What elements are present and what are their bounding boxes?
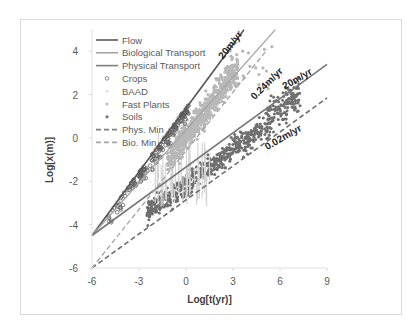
fast-plants-point [178,151,181,154]
soils-point [224,166,227,169]
soils-point [238,149,241,152]
soils-point [231,152,234,155]
fast-plants-point [175,154,178,157]
soils-point [279,108,282,111]
soils-point [285,112,288,115]
soils-point [279,115,282,118]
soils-point [282,104,285,107]
fast-plants-point [205,119,208,122]
fast-plants-point [227,76,230,79]
x-tick-label: 0 [183,276,189,287]
fast-plants-point [183,135,186,138]
legend-swatch [106,90,108,92]
soils-point [234,147,237,150]
soils-point [294,105,297,108]
x-tick-label: 9 [324,276,330,287]
soils-point [191,187,194,190]
soils-point [281,99,284,102]
soils-point [180,185,183,188]
legend-label: Biological Transport [122,47,206,58]
soils-point [220,166,223,169]
soils-point [263,133,266,136]
soils-point [237,138,240,141]
soils-point [256,123,259,126]
fast-plants-point [235,53,238,56]
soils-point [247,131,250,134]
legend-label: Fast Plants [122,99,170,110]
soils-point [278,123,281,126]
fast-plants-point [257,73,260,76]
y-tick-label: -6 [69,263,78,274]
fast-plants-point [178,162,181,165]
soils-point [154,211,157,214]
soils-point [168,197,171,200]
soils-point [211,165,214,168]
soils-point [268,131,271,134]
soils-point [158,212,161,215]
fast-plants-point [248,65,251,68]
y-tick-label: -4 [69,220,78,231]
soils-point [234,141,237,144]
legend-swatch [105,102,108,105]
scatter-chart: -6-30369-6-4-2024Log[t(yr)]Log[x(m)] Flo… [0,0,420,333]
soils-point [288,97,291,100]
soils-point [273,113,276,116]
soils-point [289,101,292,104]
legend-label: Crops [122,73,148,84]
fast-plants-point [213,88,216,91]
y-axis-title: Log[x(m)] [44,137,55,183]
soils-point [220,157,223,160]
soils-point [149,212,152,215]
soils-point [147,209,150,212]
fast-plants-point [177,141,180,144]
x-tick-label: 6 [277,276,283,287]
x-tick-label: -3 [135,276,144,287]
y-tick-label: 2 [72,90,78,101]
soils-point [294,94,297,97]
soils-point [290,98,293,101]
soils-point [229,157,232,160]
legend-item-baad: BAAD [106,86,148,97]
fast-plants-point [170,160,173,163]
soils-point [238,142,241,145]
x-axis-title: Log[t(yr)] [187,294,231,305]
fast-plants-point [216,97,219,100]
legend-label: Physical Transport [122,60,201,71]
fast-plants-point [191,116,194,119]
fast-plants-point [224,76,227,79]
fast-plants-point [230,64,233,67]
soils-point [228,152,231,155]
soils-point [299,104,302,107]
soils-point [229,149,232,152]
soils-point [248,140,251,143]
soils-point [147,206,150,209]
soils-point [216,159,219,162]
soils-point [213,173,216,176]
fast-plants-point [196,138,199,141]
fast-plants-point [254,66,257,69]
fast-plants-point [194,126,197,129]
legend-item-soils: Soils [105,111,142,122]
soils-point [291,106,294,109]
crops-point [115,210,119,214]
soils-point [147,218,150,221]
fast-plants-point [242,74,245,77]
fast-plants-point [229,87,232,90]
fast-plants-point [221,91,224,94]
fast-plants-point [173,152,176,155]
soils-point [242,149,245,152]
soils-point [272,96,275,99]
soils-point [244,131,247,134]
soils-point [249,147,252,150]
soils-point [210,172,213,175]
legend-item-flow: Flow [96,35,142,46]
fast-plants-point [218,82,221,85]
fast-plants-point [174,157,177,160]
soils-point [258,116,261,119]
soils-point [213,168,216,171]
soils-point [255,132,258,135]
soils-point [207,153,210,156]
soils-point [222,163,225,166]
soils-point [274,106,277,109]
soils-point [277,112,280,115]
